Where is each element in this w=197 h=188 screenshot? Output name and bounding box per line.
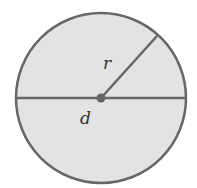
center-point — [97, 94, 106, 103]
radius-label: r — [103, 53, 112, 73]
diameter-label: d — [80, 108, 91, 128]
circle-diagram: r d — [0, 0, 197, 188]
